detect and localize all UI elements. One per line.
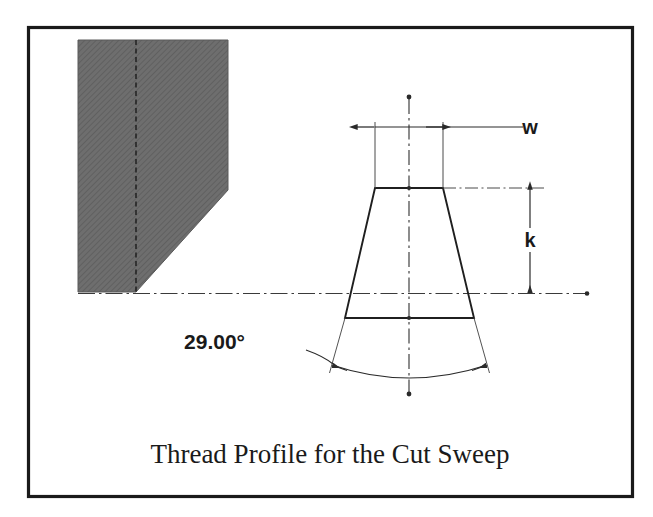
thread-profile-figure: w k 29.00° Thread Profile for the Cut Sw… bbox=[0, 0, 653, 517]
depth-dimension-label: k bbox=[524, 229, 536, 251]
width-dimension-label: w bbox=[521, 116, 538, 138]
profile-top-center-dot bbox=[407, 186, 411, 190]
profile-bottom-center-dot bbox=[407, 316, 411, 320]
horizontal-centerline-end-dot bbox=[585, 291, 590, 296]
vertical-centerline-bottom-dot bbox=[407, 392, 412, 397]
angle-dimension-label: 29.00° bbox=[184, 330, 245, 353]
vertical-centerline-top-dot bbox=[407, 95, 412, 100]
figure-caption: Thread Profile for the Cut Sweep bbox=[150, 439, 509, 469]
thread-profile-drawing: w k 29.00° Thread Profile for the Cut Sw… bbox=[0, 0, 653, 517]
